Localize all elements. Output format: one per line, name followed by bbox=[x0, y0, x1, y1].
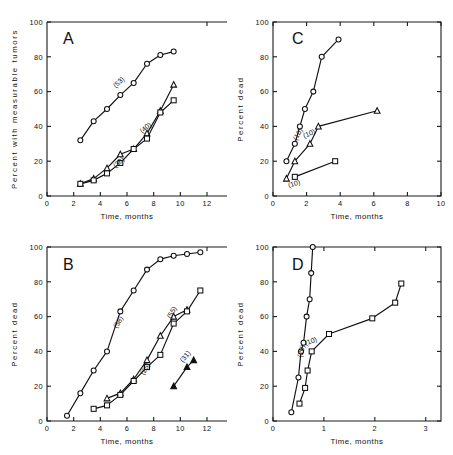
x-axis-title: Time, months bbox=[101, 437, 154, 446]
y-tick-label: 100 bbox=[29, 18, 43, 27]
series-size-label: (58) bbox=[112, 315, 125, 330]
panel-letter: C bbox=[292, 30, 304, 47]
panel-c: 0204060801000246810Time, monthsPercent d… bbox=[236, 18, 446, 221]
x-tick-label: 4 bbox=[338, 199, 343, 208]
y-axis-title: Percent dead bbox=[236, 301, 245, 367]
x-tick-label: 4 bbox=[98, 199, 103, 208]
y-tick-label: 60 bbox=[260, 87, 269, 96]
y-tick-label: 60 bbox=[34, 312, 43, 321]
x-tick-label: 10 bbox=[176, 199, 185, 208]
panel-letter: A bbox=[63, 30, 74, 47]
x-tick-label: 10 bbox=[176, 424, 185, 433]
y-tick-label: 100 bbox=[29, 243, 43, 252]
y-tick-label: 60 bbox=[260, 312, 269, 321]
x-tick-label: 8 bbox=[405, 199, 410, 208]
y-tick-label: 40 bbox=[260, 122, 269, 131]
series-size-label: (53) bbox=[112, 75, 127, 89]
y-tick-label: 80 bbox=[34, 53, 43, 62]
series-line bbox=[174, 360, 194, 386]
x-tick-label: 6 bbox=[372, 199, 377, 208]
y-tick-label: 40 bbox=[260, 347, 269, 356]
x-tick-label: 10 bbox=[436, 199, 445, 208]
y-tick-label: 0 bbox=[264, 192, 269, 201]
y-tick-label: 80 bbox=[34, 278, 43, 287]
x-tick-label: 6 bbox=[125, 199, 130, 208]
series-size-label: (10) bbox=[304, 336, 319, 348]
y-tick-label: 40 bbox=[34, 122, 43, 131]
y-tick-label: 0 bbox=[38, 192, 43, 201]
x-tick-label: 2 bbox=[373, 424, 378, 433]
y-tick-label: 20 bbox=[34, 157, 43, 166]
x-tick-label: 0 bbox=[271, 424, 276, 433]
x-tick-label: 2 bbox=[71, 424, 76, 433]
panel-b: 020406080100024681012Time, monthsPercent… bbox=[10, 243, 227, 446]
x-axis-title: Time, months bbox=[331, 212, 384, 221]
y-axis-title: Percent dead bbox=[236, 76, 245, 142]
x-tick-label: 0 bbox=[45, 199, 50, 208]
x-tick-label: 3 bbox=[423, 424, 428, 433]
x-tick-label: 6 bbox=[125, 424, 130, 433]
x-tick-label: 0 bbox=[45, 424, 50, 433]
x-tick-label: 0 bbox=[271, 199, 276, 208]
panel-letter: D bbox=[292, 256, 304, 273]
series-line bbox=[80, 85, 173, 184]
y-tick-label: 80 bbox=[260, 53, 269, 62]
x-tick-label: 8 bbox=[151, 199, 156, 208]
y-axis-title: Percent with measurable tumors bbox=[10, 29, 19, 189]
y-tick-label: 20 bbox=[260, 157, 269, 166]
series-line bbox=[299, 284, 401, 404]
series-size-label: (55) bbox=[165, 305, 178, 320]
panel-a: 020406080100024681012Time, monthsPercent… bbox=[10, 18, 227, 221]
y-tick-label: 0 bbox=[38, 417, 43, 426]
y-axis-title: Percent dead bbox=[10, 301, 19, 367]
x-tick-label: 1 bbox=[322, 424, 327, 433]
y-tick-label: 40 bbox=[34, 347, 43, 356]
series-line bbox=[67, 252, 200, 416]
panel-d: 0204060801000123Time, monthsPercent dead… bbox=[236, 243, 441, 446]
x-tick-label: 4 bbox=[98, 424, 103, 433]
series-size-label: (31) bbox=[178, 349, 192, 364]
series-size-label: (10) bbox=[302, 128, 317, 140]
y-tick-label: 20 bbox=[34, 382, 43, 391]
x-tick-label: 8 bbox=[151, 424, 156, 433]
figure-panel-grid: 020406080100024681012Time, monthsPercent… bbox=[0, 0, 453, 455]
panel-letter: B bbox=[63, 256, 74, 273]
x-tick-label: 12 bbox=[202, 199, 211, 208]
multi-panel-line-chart: 020406080100024681012Time, monthsPercent… bbox=[0, 0, 453, 455]
series-line bbox=[286, 111, 377, 179]
y-tick-label: 100 bbox=[255, 18, 269, 27]
y-tick-label: 0 bbox=[264, 417, 269, 426]
series-size-label: (38) bbox=[112, 156, 127, 170]
x-axis-title: Time, months bbox=[101, 212, 154, 221]
series-line bbox=[295, 161, 335, 177]
y-tick-label: 60 bbox=[34, 87, 43, 96]
series-line bbox=[94, 291, 201, 409]
x-axis-title: Time, months bbox=[331, 437, 384, 446]
y-tick-label: 20 bbox=[260, 382, 269, 391]
x-tick-label: 2 bbox=[304, 199, 309, 208]
series-line bbox=[80, 52, 173, 141]
y-tick-label: 80 bbox=[260, 278, 269, 287]
y-tick-label: 100 bbox=[255, 243, 269, 252]
x-tick-label: 12 bbox=[202, 424, 211, 433]
x-tick-label: 2 bbox=[71, 199, 76, 208]
